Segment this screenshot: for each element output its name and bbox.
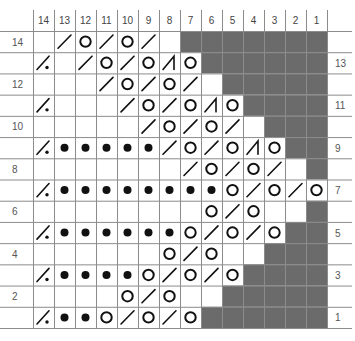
k2tog-symbol — [142, 290, 155, 303]
column-number: 2 — [293, 15, 299, 26]
dot-mark — [45, 66, 48, 69]
no-stitch-cell — [222, 73, 243, 94]
column-number: 14 — [38, 15, 50, 26]
purl-dot-symbol — [124, 229, 132, 237]
k2tog-symbol — [226, 120, 239, 133]
k2tog-symbol — [247, 226, 260, 239]
slash-dot-symbol — [37, 268, 49, 281]
yarn-over-symbol — [206, 164, 216, 174]
no-stitch-cell — [243, 286, 264, 307]
yarn-over-symbol — [164, 79, 174, 89]
yarn-over-symbol — [143, 100, 153, 110]
yarn-over-symbol — [80, 36, 90, 46]
purl-dot-symbol — [166, 186, 174, 194]
no-stitch-cell — [306, 95, 327, 116]
row-label-left: 10 — [12, 121, 24, 132]
purl-dot-symbol — [166, 229, 174, 237]
yarn-over-symbol — [269, 227, 279, 237]
purl-dot-symbol — [103, 271, 111, 279]
slash-bar-stroke — [163, 56, 174, 69]
purl-dot-symbol — [145, 229, 153, 237]
yarn-over-symbol — [227, 185, 237, 195]
k2tog-symbol — [205, 226, 218, 239]
k2tog-symbol — [58, 35, 71, 48]
purl-dot-symbol — [187, 186, 195, 194]
no-stitch-cell — [201, 52, 222, 73]
yarn-over-symbol — [185, 142, 195, 152]
column-number: 6 — [209, 15, 215, 26]
row-label-left: 4 — [12, 249, 18, 260]
slash-bar-symbol — [163, 56, 174, 69]
k2tog-symbol — [184, 247, 197, 260]
no-stitch-cell — [222, 286, 243, 307]
row-label-right: 11 — [335, 100, 346, 111]
column-number: 11 — [101, 15, 112, 26]
purl-dot-symbol — [61, 271, 69, 279]
purl-dot-symbol — [124, 271, 132, 279]
no-stitch-cell — [264, 95, 285, 116]
no-stitch-cell — [306, 201, 327, 222]
no-stitch-cell — [180, 31, 201, 52]
no-stitch-cell — [243, 95, 264, 116]
slash-bar-stroke — [205, 99, 216, 112]
yarn-over-symbol — [206, 249, 216, 259]
column-number: 13 — [59, 15, 71, 26]
row-label-left: 12 — [12, 79, 24, 90]
k2tog-symbol — [142, 120, 155, 133]
k2tog-symbol — [184, 162, 197, 175]
yarn-over-symbol — [185, 270, 195, 280]
purl-dot-symbol — [61, 186, 69, 194]
purl-dot-symbol — [145, 144, 153, 152]
k2tog-symbol — [100, 35, 113, 48]
no-stitch-cell — [285, 286, 306, 307]
k2tog-symbol — [247, 184, 260, 197]
purl-dot-symbol — [208, 186, 216, 194]
slash-dot-symbol — [37, 141, 49, 154]
no-stitch-cell — [306, 116, 327, 137]
yarn-over-symbol — [122, 291, 132, 301]
column-number: 8 — [167, 15, 173, 26]
k2tog-symbol — [163, 311, 176, 324]
no-stitch-cell — [306, 52, 327, 73]
purl-dot-symbol — [103, 144, 111, 152]
purl-dot-symbol — [145, 186, 153, 194]
row-label-right: 3 — [335, 270, 341, 281]
dot-mark — [45, 320, 48, 323]
slash-bar-symbol — [247, 141, 258, 154]
yarn-over-symbol — [227, 100, 237, 110]
no-stitch-cell — [306, 264, 327, 285]
no-stitch-cell — [264, 31, 285, 52]
purl-dot-symbol — [103, 229, 111, 237]
no-stitch-cell — [243, 52, 264, 73]
column-number: 12 — [80, 15, 92, 26]
no-stitch-cell — [243, 31, 264, 52]
column-number: 7 — [188, 15, 194, 26]
no-stitch-cell — [264, 73, 285, 94]
purl-dot-symbol — [124, 144, 132, 152]
no-stitch-cell — [306, 286, 327, 307]
column-number: 3 — [272, 15, 278, 26]
purl-dot-symbol — [82, 313, 90, 321]
yarn-over-symbol — [185, 312, 195, 322]
no-stitch-cell — [243, 307, 264, 328]
purl-dot-symbol — [61, 144, 69, 152]
row-label-left: 2 — [12, 291, 18, 302]
dot-mark — [45, 151, 48, 154]
purl-dot-symbol — [82, 144, 90, 152]
yarn-over-symbol — [101, 312, 111, 322]
k2tog-symbol — [79, 56, 92, 69]
yarn-over-symbol — [248, 206, 258, 216]
no-stitch-cell — [306, 222, 327, 243]
row-label-left: 6 — [12, 206, 18, 217]
row-label-right: 5 — [335, 228, 341, 239]
slash-dot-symbol — [37, 56, 49, 69]
yarn-over-symbol — [122, 79, 132, 89]
k2tog-symbol — [163, 268, 176, 281]
no-stitch-cell — [285, 243, 306, 264]
column-number: 1 — [314, 15, 320, 26]
k2tog-symbol — [226, 162, 239, 175]
no-stitch-cell — [306, 158, 327, 179]
k2tog-symbol — [121, 99, 134, 112]
yarn-over-symbol — [311, 185, 321, 195]
dot-mark — [45, 193, 48, 196]
